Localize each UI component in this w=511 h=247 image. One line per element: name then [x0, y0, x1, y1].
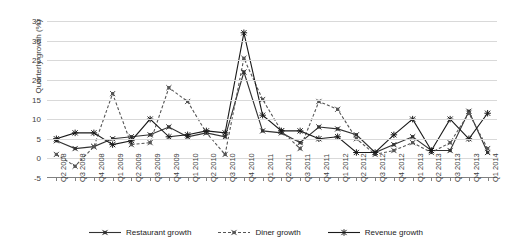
x-tick-mark: [225, 178, 226, 181]
legend-swatch-icon: [327, 228, 361, 237]
grid-line: [47, 119, 497, 120]
x-tick-label: Q3 2009: [153, 153, 162, 182]
y-tick-label: -5: [34, 174, 41, 183]
legend-label: Revenue growth: [365, 228, 423, 237]
legend-item[interactable]: Restaurant growth: [88, 228, 191, 237]
x-tick-mark: [413, 178, 414, 181]
legend-swatch-icon: [217, 228, 251, 237]
y-tick-label: 5: [37, 134, 41, 143]
x-tick-mark: [56, 178, 57, 181]
grid-line: [47, 60, 497, 61]
x-tick-label: Q1 2011: [266, 154, 275, 182]
x-tick-label: Q1 2013: [416, 153, 425, 182]
x-tick-label: Q3 2011: [303, 154, 312, 182]
grid-line: [47, 80, 497, 81]
grid-line: [47, 100, 497, 101]
x-tick-label: Q2 2009: [134, 153, 143, 182]
x-tick-mark: [450, 178, 451, 181]
x-tick-mark: [375, 178, 376, 181]
x-tick-mark: [113, 178, 114, 181]
x-tick-mark: [319, 178, 320, 181]
x-tick-mark: [94, 178, 95, 181]
grid-line: [47, 41, 497, 42]
x-tick-mark: [356, 178, 357, 181]
x-tick-label: Q4 2008: [97, 153, 106, 182]
legend-label: Diner growth: [255, 228, 300, 237]
x-tick-label: Q4 2010: [247, 153, 256, 182]
x-tick-label: Q1 2009: [116, 153, 125, 182]
x-tick-label: Q2 2013: [434, 153, 443, 182]
x-tick-mark: [75, 178, 76, 181]
x-tick-label: Q2 2008: [59, 153, 68, 182]
x-tick-mark: [131, 178, 132, 181]
x-tick-label: Q3 2010: [228, 153, 237, 182]
x-tick-mark: [281, 178, 282, 181]
legend-item[interactable]: Diner growth: [217, 228, 300, 237]
y-axis-title: Quarterly growth (%): [34, 0, 43, 117]
x-tick-label: Q3 2008: [78, 153, 87, 182]
y-tick-label: 0: [37, 154, 41, 163]
x-tick-mark: [169, 178, 170, 181]
x-tick-label: Q2 2010: [209, 153, 218, 182]
x-tick-label: Q3 2012: [378, 153, 387, 182]
legend-label: Restaurant growth: [126, 228, 191, 237]
series-line: [56, 58, 487, 166]
x-tick-mark: [338, 178, 339, 181]
x-tick-label: Q4 2011: [322, 154, 331, 182]
x-tick-mark: [469, 178, 470, 181]
x-tick-mark: [300, 178, 301, 181]
series-line: [56, 72, 487, 153]
x-tick-mark: [206, 178, 207, 181]
x-tick-mark: [150, 178, 151, 181]
chart-legend: Restaurant growthDiner growthRevenue gro…: [0, 222, 511, 242]
series-line: [56, 33, 487, 153]
grid-line: [47, 21, 497, 22]
legend-swatch-icon: [88, 228, 122, 237]
legend-item[interactable]: Revenue growth: [327, 228, 423, 237]
x-tick-mark: [488, 178, 489, 181]
x-tick-label: Q1 2010: [191, 153, 200, 182]
line-chart: 35302520151050-5 Quarterly growth (%) Q2…: [0, 0, 511, 247]
x-tick-label: Q1 2014: [491, 153, 500, 182]
x-tick-mark: [394, 178, 395, 181]
x-tick-label: Q4 2012: [397, 153, 406, 182]
x-tick-label: Q4 2013: [472, 153, 481, 182]
x-tick-label: Q3 2013: [453, 153, 462, 182]
x-tick-label: Q4 2009: [172, 153, 181, 182]
x-tick-mark: [263, 178, 264, 181]
x-tick-label: Q1 2012: [341, 153, 350, 182]
x-tick-mark: [188, 178, 189, 181]
x-tick-mark: [244, 178, 245, 181]
x-tick-mark: [431, 178, 432, 181]
x-tick-label: Q2 2011: [284, 154, 293, 182]
grid-line: [47, 139, 497, 140]
x-tick-label: Q2 2012: [359, 153, 368, 182]
